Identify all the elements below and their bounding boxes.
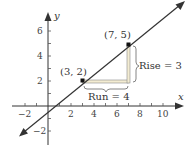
y-tick-6: 6 <box>37 27 43 36</box>
point-3-2 <box>81 79 85 83</box>
point-label-3-2: (3, 2) <box>60 67 87 77</box>
y-tick-neg2: −2 <box>33 127 46 136</box>
x-tick-2: 2 <box>68 110 74 119</box>
run-segment <box>83 80 129 83</box>
x-tick-6: 6 <box>114 110 120 119</box>
slope-diagram <box>0 0 189 148</box>
line-arrow-up-icon <box>176 1 186 10</box>
point-label-7-5: (7, 5) <box>104 30 131 40</box>
rise-label: Rise = 3 <box>139 61 182 71</box>
y-axis-label: y <box>54 11 60 21</box>
run-label: Run = 4 <box>88 92 130 102</box>
x-tick-neg2: −2 <box>18 110 31 119</box>
y-tick-4: 4 <box>37 52 43 61</box>
rise-segment <box>127 44 130 83</box>
y-tick-2: 2 <box>37 77 43 86</box>
point-7-5 <box>127 43 131 47</box>
y-axis-arrow-icon <box>45 12 52 21</box>
x-axis-arrow-icon <box>175 103 184 110</box>
x-axis-label: x <box>178 92 184 102</box>
x-tick-4: 4 <box>91 110 97 119</box>
x-tick-10: 10 <box>157 110 168 119</box>
x-tick-8: 8 <box>137 110 143 119</box>
